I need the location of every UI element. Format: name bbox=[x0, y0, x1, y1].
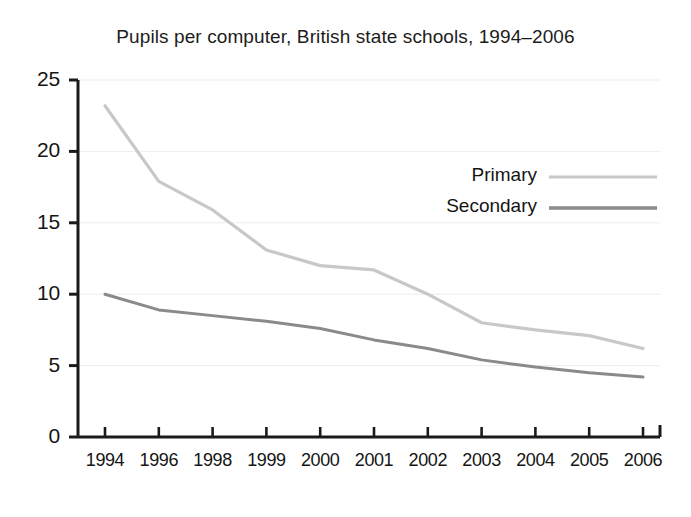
chart-figure: Pupils per computer, British state schoo… bbox=[0, 0, 691, 517]
x-tick-label: 2005 bbox=[562, 450, 616, 471]
gridlines bbox=[78, 80, 660, 437]
y-tick-label: 0 bbox=[16, 424, 60, 448]
x-tick-label: 2004 bbox=[508, 450, 562, 471]
y-tick-label: 25 bbox=[16, 67, 60, 91]
x-tick-label: 2002 bbox=[401, 450, 455, 471]
x-tick-label: 2006 bbox=[616, 450, 670, 471]
legend-label-primary: Primary bbox=[472, 164, 537, 186]
series-lines bbox=[105, 106, 643, 377]
y-tick-label: 15 bbox=[16, 210, 60, 234]
x-tick-label: 1996 bbox=[132, 450, 186, 471]
axis-lines bbox=[69, 80, 660, 437]
y-tick-label: 5 bbox=[16, 353, 60, 377]
y-tick-label: 20 bbox=[16, 138, 60, 162]
legend-swatches bbox=[549, 177, 657, 208]
series-line-secondary bbox=[105, 294, 643, 377]
plot-area bbox=[0, 0, 691, 517]
x-tick-label: 1998 bbox=[186, 450, 240, 471]
x-tick-label: 2003 bbox=[455, 450, 509, 471]
legend-label-secondary: Secondary bbox=[446, 195, 537, 217]
y-tick-label: 10 bbox=[16, 281, 60, 305]
x-tick-label: 1999 bbox=[239, 450, 293, 471]
x-tick-label: 2001 bbox=[347, 450, 401, 471]
x-tick-label: 2000 bbox=[293, 450, 347, 471]
x-tick-label: 1994 bbox=[78, 450, 132, 471]
